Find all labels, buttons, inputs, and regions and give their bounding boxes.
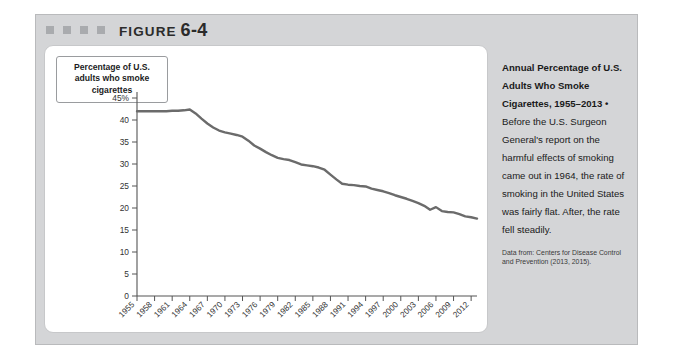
decorative-square-icon: [46, 26, 54, 34]
x-axis-tick-label: 1970: [205, 300, 225, 320]
figure-caption: Annual Percentage of U.S. Adults Who Smo…: [502, 57, 630, 267]
x-axis-tick-label: 1958: [135, 300, 155, 320]
x-axis-tick-label: 1955: [117, 300, 137, 320]
x-axis-tick-label: 1979: [258, 300, 278, 320]
decorative-square-icon: [80, 26, 88, 34]
decorative-square-icon: [97, 26, 105, 34]
figure-container: FIGURE6-4 Percentage of U.S. adults who …: [35, 14, 638, 345]
x-axis-tick-label: 1994: [346, 300, 366, 320]
plot-area: 051015202530354045%195519581961196419671…: [45, 46, 487, 332]
x-axis-tick-label: 1964: [170, 300, 190, 320]
figure-label-word: FIGURE: [119, 24, 177, 39]
y-axis-tick-label: 20: [120, 203, 130, 213]
y-axis-tick-label: 30: [120, 159, 130, 169]
x-axis-tick-label: 2000: [381, 300, 401, 320]
caption-source: Data from: Centers for Disease Control a…: [502, 248, 630, 267]
y-axis-tick-label: 40: [120, 115, 130, 125]
x-axis-tick-label: 2006: [416, 300, 436, 320]
data-line-series: [137, 109, 477, 218]
decorative-square-icon: [63, 26, 71, 34]
y-axis-tick-label: 10: [120, 247, 130, 257]
caption-body: Before the U.S. Surgeon General's report…: [502, 116, 624, 235]
x-axis-tick-label: 1982: [275, 300, 295, 320]
decorative-squares: [46, 26, 105, 34]
x-axis-tick-label: 1997: [363, 300, 383, 320]
x-axis-tick-label: 1985: [293, 300, 313, 320]
x-axis-tick-label: 1961: [152, 300, 172, 320]
caption-lead: Annual Percentage of U.S. Adults Who Smo…: [502, 62, 622, 109]
x-axis-tick-label: 1976: [240, 300, 260, 320]
figure-header: FIGURE6-4: [36, 15, 637, 45]
x-axis-tick-label: 1967: [188, 300, 208, 320]
x-axis-tick-label: 2012: [451, 300, 471, 320]
y-axis-tick-label: 45%: [112, 93, 129, 103]
chart-panel: Percentage of U.S. adults who smoke ciga…: [44, 45, 488, 333]
x-axis-tick-label: 1988: [311, 300, 331, 320]
figure-title: FIGURE6-4: [119, 20, 208, 41]
y-axis-tick-label: 0: [124, 291, 129, 301]
caption-text-block: Annual Percentage of U.S. Adults Who Smo…: [502, 57, 630, 237]
y-axis-tick-label: 25: [120, 181, 130, 191]
y-axis-tick-label: 15: [120, 225, 130, 235]
chart-svg: 051015202530354045%195519581961196419671…: [45, 46, 489, 334]
x-axis-tick-label: 2009: [434, 300, 454, 320]
y-axis-tick-label: 35: [120, 137, 130, 147]
figure-label-number: 6-4: [181, 20, 208, 40]
x-axis-tick-label: 1973: [223, 300, 243, 320]
x-axis-tick-label: 1991: [328, 300, 348, 320]
x-axis-tick-label: 2003: [399, 300, 419, 320]
y-axis-tick-label: 5: [124, 269, 129, 279]
